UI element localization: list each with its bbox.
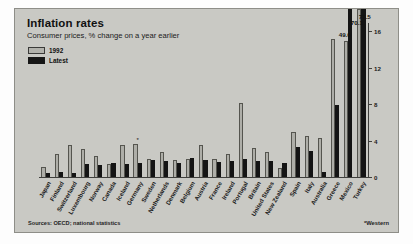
x-axis-label-cell: Belgium [184,179,197,231]
bar-group [39,23,52,178]
axis-baseline [39,177,368,178]
bar-group [65,23,78,178]
bar-latest [243,159,247,178]
bar-latest [203,160,207,178]
x-axis-label-cell: Denmark [171,179,184,231]
tick-mark [368,68,372,69]
tick-mark [368,31,372,32]
bar-latest [230,161,234,178]
bar-latest [138,163,142,178]
x-axis-label: Turkey [352,180,368,200]
x-axis-label-cell: Australia [315,179,328,231]
bar-latest [125,164,129,178]
tick-mark [368,104,372,105]
y-axis: 0481216 [368,23,398,178]
bar-group [171,23,184,178]
bar-group [302,23,315,178]
bar-group [184,23,197,178]
x-axis-label-cell: New Zealand [276,179,289,231]
bar-latest [190,158,194,178]
x-axis-label-cell: Greece [328,179,341,231]
bar-value-callout: 49.0 [339,31,351,38]
bar-latest [282,163,286,179]
bar-value-callout: 70.1 [351,19,363,26]
x-axis-label: Italy [303,180,315,194]
bar-group [197,23,210,178]
bar-latest [309,151,313,178]
bar-group [144,23,157,178]
x-axis-label-cell: Germany [131,179,144,231]
bar-group [223,23,236,178]
bar-group [263,23,276,178]
bar-group [92,23,105,178]
bar-group-container: *49.070.177.5 [39,23,368,178]
y-axis-tick-label: 4 [374,138,377,145]
bar-latest [111,163,115,178]
bar-group [315,23,328,178]
x-axis-label-cell: Austria [197,179,210,231]
y-axis-tick-label: 16 [374,28,381,35]
bar-latest [335,105,339,178]
footnote: *Western [364,220,389,226]
bar-latest [296,147,300,178]
bar-group [118,23,131,178]
bar-latest [361,9,365,178]
x-axis-label: Spain [287,180,301,198]
bar-latest [85,164,89,178]
bar-group: * [131,23,144,178]
bar-latest [269,161,273,178]
x-axis-label-cell: Mexico [342,179,355,231]
y-axis-tick-label: 8 [374,101,377,108]
bar-group [78,23,91,178]
x-axis-label-cell: Ireland [223,179,236,231]
tick-mark [368,141,372,142]
bar-latest [164,161,168,178]
bar-group [250,23,263,178]
bar-group [52,23,65,178]
x-axis-label-cell: Spain [289,179,302,231]
bar-group [236,23,249,178]
bar-group: 70.177.5 [355,23,368,178]
y-axis-line [368,23,369,178]
bar-group [328,23,341,178]
tick-mark [368,177,372,178]
bar-latest [177,163,181,179]
bar-latest [256,161,260,178]
bar-latest [151,160,155,178]
plot-area: *49.070.177.5 [39,23,368,178]
bar-value-callout: 77.5 [359,13,371,20]
bar-group [105,23,118,178]
bar-group [276,23,289,178]
source-note: Sources: OECD; national statistics [28,220,120,226]
bar-group [210,23,223,178]
y-axis-tick-label: 12 [374,65,381,72]
x-axis-label-cell: France [210,179,223,231]
bar-group [289,23,302,178]
y-axis-tick-label: 0 [374,174,377,181]
chart-panel: Inflation rates Consumer prices, % chang… [14,8,399,233]
chart-page: Inflation rates Consumer prices, % chang… [0,0,413,244]
bar-group: 49.0 [342,23,355,178]
category-annotation-asterisk: * [137,137,139,143]
x-axis-label-cell: Portugal [236,179,249,231]
bar-group [157,23,170,178]
bar-latest [217,162,221,178]
